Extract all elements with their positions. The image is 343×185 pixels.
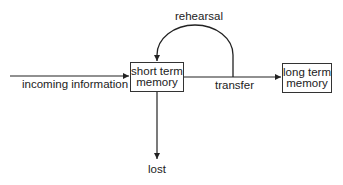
lost-label: lost <box>148 163 166 175</box>
short-term-memory-node: short term memory <box>130 62 184 92</box>
long-term-line2: memory <box>283 78 331 90</box>
long-term-memory-node: long term memory <box>282 63 332 93</box>
transfer-label: transfer <box>215 79 254 91</box>
short-term-line2: memory <box>131 77 183 89</box>
incoming-information-label: incoming information <box>22 78 128 90</box>
rehearsal-label: rehearsal <box>175 10 223 22</box>
